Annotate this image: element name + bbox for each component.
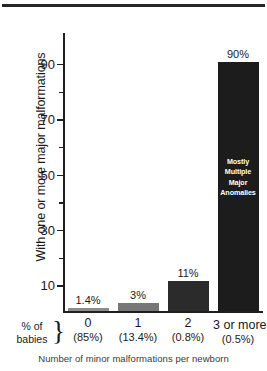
- bar-annotation-line: Major: [229, 178, 248, 187]
- x-axis-title: Number of minor malformations per newbor…: [0, 353, 267, 364]
- x-category-percent: (0.5%): [213, 332, 263, 346]
- plot-area: 1030507090 1.4%3%11%90%MostlyMultipleMaj…: [63, 33, 263, 313]
- bar-value-label: 1.4%: [75, 294, 100, 306]
- bar: 3%: [118, 303, 159, 311]
- y-tick-mark: [59, 92, 63, 93]
- figure: With one or more major malformations 103…: [0, 0, 267, 371]
- y-tick-label: 30: [41, 224, 55, 237]
- x-category-name: 0: [63, 316, 113, 330]
- y-tick-mark: [59, 147, 63, 148]
- x-axis-category-labels: 0(85%)1(13.4%)2(0.8%)3 or more(0.5%): [63, 316, 263, 350]
- bar-value-label: 90%: [227, 48, 249, 60]
- x-category-percent: (0.8%): [163, 330, 213, 344]
- x-category-percent: (85%): [63, 330, 113, 344]
- x-category-name: 2: [163, 316, 213, 330]
- percent-of-babies-line1: % of: [21, 320, 42, 332]
- header-divider: [2, 4, 265, 7]
- percent-of-babies-label: % of babies: [12, 320, 52, 346]
- y-tick-mark: [59, 202, 63, 203]
- y-tick-mark: [57, 119, 63, 120]
- x-category-percent: (13.4%): [113, 330, 163, 344]
- y-tick-mark: [59, 258, 63, 259]
- bar: 11%: [168, 281, 209, 311]
- bar-value-label: 11%: [177, 267, 198, 279]
- bar-annotation-line: Mostly: [227, 157, 249, 166]
- x-category-label: 0(85%): [63, 316, 113, 345]
- bar-annotation: MostlyMultipleMajorAnomalies: [218, 157, 259, 199]
- y-axis-line: [63, 33, 65, 313]
- x-category-label: 2(0.8%): [163, 316, 213, 345]
- x-axis-line: [63, 311, 263, 313]
- bar-annotation-line: Anomalies: [220, 188, 255, 197]
- y-tick-label: 70: [41, 113, 55, 126]
- percent-of-babies-line2: babies: [17, 333, 48, 345]
- y-tick-mark: [57, 230, 63, 231]
- y-tick-label: 50: [41, 168, 55, 181]
- bar-value-label: 3%: [130, 289, 146, 301]
- x-category-label: 3 or more(0.5%): [213, 318, 263, 347]
- curly-brace-icon: }: [52, 318, 65, 345]
- x-category-label: 1(13.4%): [113, 316, 163, 345]
- bar-annotation-line: Multiple: [225, 167, 251, 176]
- bar: 90%MostlyMultipleMajorAnomalies: [218, 62, 259, 311]
- y-tick-mark: [57, 285, 63, 286]
- x-category-name: 1: [113, 316, 163, 330]
- clipped-header-text: [0, 0, 267, 2]
- y-tick-label: 10: [41, 279, 55, 292]
- y-tick-mark: [57, 64, 63, 65]
- x-category-name: 3 or more: [213, 318, 263, 332]
- bar: 1.4%: [68, 308, 109, 312]
- y-tick-label: 90: [41, 58, 55, 71]
- y-tick-mark: [57, 175, 63, 176]
